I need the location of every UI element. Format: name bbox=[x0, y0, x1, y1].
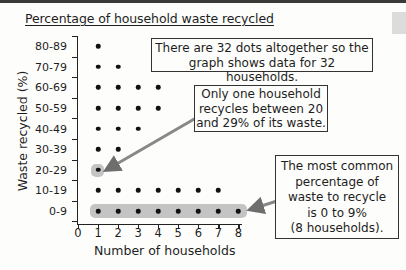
arrow-to-20-29-icon bbox=[108, 118, 196, 169]
callout-mode-line-4: is 0 to 9% bbox=[276, 206, 398, 222]
callout-total: There are 32 dots altogether so the grap… bbox=[151, 38, 373, 72]
callout-single: Only one household recycles between 20 a… bbox=[194, 85, 328, 132]
callout-mode: The most common percentage of waste to r… bbox=[275, 155, 399, 239]
callout-mode-line-3: waste to recycle bbox=[276, 190, 398, 206]
callout-total-line-2: graph shows data for 32 households. bbox=[152, 56, 372, 85]
callout-single-line-1: Only one household bbox=[195, 87, 327, 102]
callout-mode-line-2: percentage of bbox=[276, 175, 398, 191]
callout-single-line-3: and 29% of its waste. bbox=[195, 116, 327, 131]
callout-single-line-2: recycles between 20 bbox=[195, 102, 327, 117]
callout-mode-line-5: (8 households). bbox=[276, 221, 398, 237]
callout-mode-line-1: The most common bbox=[276, 159, 398, 175]
callout-total-line-1: There are 32 dots altogether so the bbox=[152, 41, 372, 56]
arrow-to-0-9-icon bbox=[252, 201, 277, 209]
